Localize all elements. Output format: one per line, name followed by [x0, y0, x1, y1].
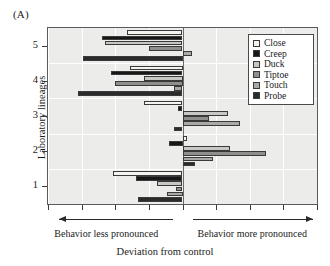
bar-creep-lineage-4: [111, 71, 182, 76]
bar-duck-lineage-4: [144, 76, 183, 81]
bar-probe-lineage-5: [83, 56, 183, 61]
x-axis-title: Deviation from control: [0, 246, 330, 257]
y-tick-label-4: 4: [20, 74, 38, 85]
bar-probe-lineage-4: [78, 91, 182, 96]
bar-creep-lineage-5: [102, 36, 183, 41]
legend-label: Duck: [264, 59, 285, 70]
bar-close-lineage-4: [130, 66, 183, 71]
x-tick-mark: [250, 205, 251, 210]
arrow-more-pronounced-icon: [193, 214, 314, 224]
legend-item-creep[interactable]: Creep: [253, 49, 309, 60]
bar-duck-lineage-2: [183, 146, 230, 151]
legend-item-probe[interactable]: Probe: [253, 91, 309, 102]
legend-swatch-tiptoe-icon: [253, 71, 260, 78]
gridline-vertical: [216, 28, 217, 204]
legend-swatch-duck-icon: [253, 61, 260, 68]
bar-duck-lineage-1: [157, 181, 183, 186]
legend-label: Probe: [264, 91, 286, 102]
x-tick-mark: [216, 205, 217, 210]
x-tick-mark: [149, 205, 150, 210]
x-tick-mark: [48, 205, 49, 210]
arrow-less-pronounced-icon: [59, 214, 173, 224]
panel-label: (A): [13, 8, 29, 20]
y-tick-label-5: 5: [20, 39, 38, 50]
bar-touch-lineage-1: [167, 192, 183, 197]
bar-close-lineage-2: [183, 136, 188, 141]
y-tick-label-1: 1: [20, 179, 38, 190]
chart-legend: CloseCreepDuckTiptoeTouchProbe: [248, 34, 314, 105]
x-tick-mark: [317, 205, 318, 210]
caption-less-pronounced: Behavior less pronounced: [30, 228, 183, 239]
gridline-vertical: [48, 28, 49, 204]
legend-label: Close: [264, 38, 286, 49]
legend-swatch-touch-icon: [253, 82, 260, 89]
x-tick-mark: [82, 205, 83, 210]
bar-probe-lineage-2: [183, 162, 196, 167]
legend-item-duck[interactable]: Duck: [253, 59, 309, 70]
legend-swatch-probe-icon: [253, 92, 260, 99]
figure-panel-a: (A) Laboratory lineages 12345 CloseCreep…: [0, 0, 330, 266]
bar-tiptoe-lineage-1: [176, 187, 182, 192]
bar-creep-lineage-1: [136, 176, 182, 181]
bar-probe-lineage-3: [174, 127, 183, 132]
bar-creep-lineage-3: [178, 106, 183, 111]
bar-tiptoe-lineage-4: [115, 81, 182, 86]
bar-tiptoe-lineage-5: [149, 46, 183, 51]
x-tick-mark: [283, 205, 284, 210]
x-tick-mark: [183, 205, 184, 210]
bar-creep-lineage-2: [169, 141, 183, 146]
bar-probe-lineage-1: [138, 197, 182, 202]
bar-close-lineage-5: [127, 30, 183, 35]
y-tick-label-2: 2: [20, 144, 38, 155]
legend-label: Tiptoe: [264, 70, 288, 81]
legend-swatch-close-icon: [253, 40, 260, 47]
legend-swatch-creep-icon: [253, 50, 260, 57]
bar-duck-lineage-3: [183, 111, 229, 116]
bar-touch-lineage-4: [174, 86, 183, 91]
caption-more-pronounced: Behavior more pronounced: [183, 228, 323, 239]
x-tick-mark: [115, 205, 116, 210]
legend-label: Creep: [264, 49, 287, 60]
bar-touch-lineage-3: [183, 121, 241, 126]
legend-item-touch[interactable]: Touch: [253, 80, 309, 91]
legend-item-close[interactable]: Close: [253, 38, 309, 49]
bar-tiptoe-lineage-2: [183, 151, 266, 156]
gridline-vertical: [82, 28, 83, 204]
bar-duck-lineage-5: [105, 41, 182, 46]
legend-label: Touch: [264, 80, 288, 91]
legend-item-tiptoe[interactable]: Tiptoe: [253, 70, 309, 81]
bar-close-lineage-3: [144, 101, 182, 106]
bar-close-lineage-1: [113, 171, 182, 176]
gridline-vertical: [115, 28, 116, 204]
bar-touch-lineage-5: [183, 51, 192, 56]
y-tick-label-3: 3: [20, 109, 38, 120]
bar-tiptoe-lineage-3: [183, 116, 209, 121]
gridline-vertical: [317, 28, 318, 204]
bar-touch-lineage-2: [183, 157, 214, 162]
